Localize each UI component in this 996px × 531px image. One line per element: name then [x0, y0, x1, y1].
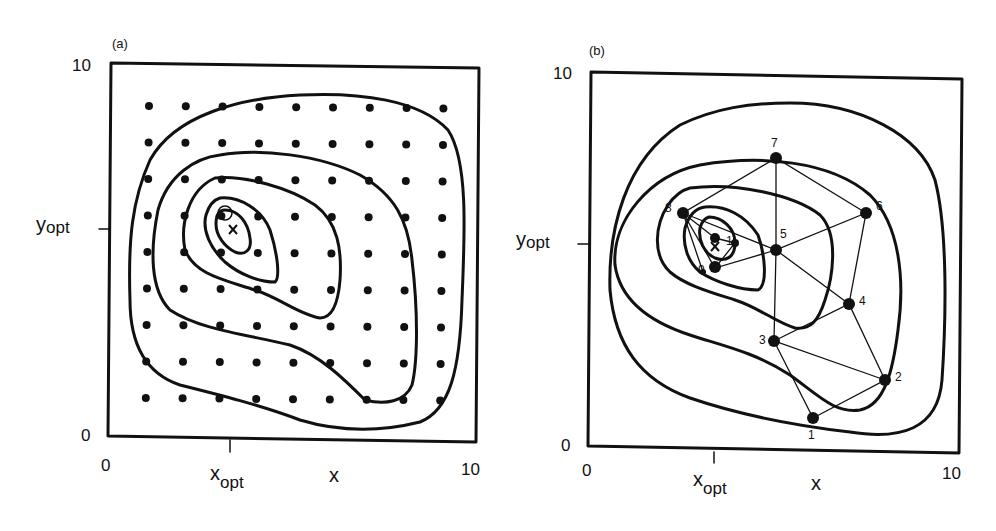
simplex-point-5: [770, 244, 782, 256]
simplex-label-2: 2: [895, 370, 902, 384]
grid-point: [365, 177, 373, 185]
grid-point: [329, 104, 337, 112]
grid-point: [217, 212, 225, 220]
simplex-point-3: [768, 335, 780, 347]
grid-point: [143, 321, 151, 329]
grid-point: [181, 175, 189, 183]
grid-point: [363, 323, 371, 331]
grid-point: [327, 250, 335, 258]
panel-a-contour-3: [184, 178, 341, 318]
simplex-point-8: [677, 207, 689, 219]
grid-point: [179, 321, 187, 329]
grid-point: [253, 322, 261, 330]
grid-point: [437, 360, 445, 368]
panel-b-x-left-tick: 0: [582, 461, 591, 481]
panel-b-y-top-tick: 10: [553, 64, 572, 84]
grid-point: [436, 396, 444, 404]
grid-point: [402, 177, 410, 185]
panel-b-contour-4: [684, 207, 764, 290]
simplex-label-4: 4: [859, 294, 866, 308]
panel-b-simplex-points: [677, 152, 891, 424]
grid-point: [292, 140, 300, 148]
grid-point: [217, 249, 225, 257]
figure-canvas: [0, 0, 996, 531]
grid-point: [291, 249, 299, 257]
grid-point: [400, 360, 408, 368]
panel-a-y-top-tick: 10: [72, 56, 91, 76]
grid-point: [438, 250, 446, 258]
panel-b-optimum-marker: [711, 242, 719, 251]
grid-point: [216, 322, 224, 330]
panel-a-x-opt-label: xopt: [210, 462, 244, 485]
grid-point: [179, 394, 187, 402]
grid-point: [290, 322, 298, 330]
simplex-label-6: 6: [876, 199, 883, 213]
grid-point: [218, 139, 226, 147]
grid-point: [292, 103, 300, 111]
panel-a-plot: [99, 63, 479, 452]
grid-point: [289, 359, 297, 367]
simplex-label-9: 9: [698, 263, 705, 277]
grid-point: [290, 286, 298, 294]
simplex-label-3: 3: [759, 333, 766, 347]
grid-point: [365, 140, 373, 148]
grid-point: [143, 248, 151, 256]
grid-point: [145, 102, 153, 110]
panel-b-plot: [578, 72, 962, 463]
grid-point: [438, 214, 446, 222]
panel-a-y-bottom-tick: 0: [81, 426, 90, 446]
grid-point: [142, 394, 150, 402]
grid-point: [400, 323, 408, 331]
panel-b-x-opt-label: xopt: [693, 468, 727, 491]
grid-point: [144, 212, 152, 220]
grid-point: [363, 359, 371, 367]
grid-point: [327, 286, 335, 294]
grid-point: [253, 285, 261, 293]
panel-a-x-axis-label: x: [329, 464, 339, 487]
grid-point: [327, 323, 335, 331]
panel-b-contour-2: [615, 160, 901, 410]
grid-point: [180, 285, 188, 293]
panel-a-tag: (a): [112, 36, 128, 51]
panel-a-x-right-tick: 10: [461, 460, 480, 480]
panel-b-y-opt-label: yopt: [516, 228, 550, 251]
grid-point: [289, 395, 297, 403]
grid-point: [439, 177, 447, 185]
simplex-point-6: [860, 207, 872, 219]
grid-point: [364, 286, 372, 294]
simplex-point-7: [770, 152, 782, 164]
grid-point: [328, 213, 336, 221]
simplex-point-9a: [710, 233, 720, 243]
grid-point: [181, 212, 189, 220]
simplex-label-8: 8: [665, 201, 672, 215]
grid-point: [255, 176, 263, 184]
grid-point: [291, 213, 299, 221]
grid-point: [326, 396, 334, 404]
simplex-label-5: 5: [780, 227, 787, 241]
grid-point: [402, 141, 410, 149]
grid-point: [364, 250, 372, 258]
grid-point: [217, 285, 225, 293]
grid-point: [252, 395, 260, 403]
panel-a-optimum-marker: [229, 225, 237, 234]
grid-point: [399, 396, 407, 404]
grid-point: [215, 395, 223, 403]
grid-point: [401, 287, 409, 295]
grid-point: [437, 323, 445, 331]
grid-point: [216, 358, 224, 366]
grid-point: [179, 358, 187, 366]
grid-point: [366, 104, 374, 112]
grid-point: [218, 176, 226, 184]
grid-point: [439, 104, 447, 112]
panel-a-grid-points: [142, 102, 448, 404]
grid-point: [401, 250, 409, 258]
grid-point: [291, 176, 299, 184]
grid-point: [144, 175, 152, 183]
simplex-point-1: [807, 412, 819, 424]
grid-point: [143, 285, 151, 293]
grid-point: [219, 103, 227, 111]
grid-point: [182, 102, 190, 110]
grid-point: [142, 358, 150, 366]
grid-point: [329, 140, 337, 148]
simplex-label-1: 1: [808, 428, 815, 442]
